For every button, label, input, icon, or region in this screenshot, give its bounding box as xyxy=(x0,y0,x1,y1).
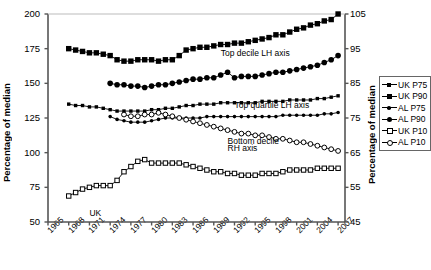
legend-item-label: UK P90 xyxy=(398,91,427,101)
legend-marker-icon xyxy=(382,91,397,101)
legend-item-label: AL P10 xyxy=(398,137,426,147)
annotation-label: UK xyxy=(89,208,101,218)
legend-item-uk-p90[interactable]: UK P90 xyxy=(382,91,427,103)
legend-marker-icon xyxy=(382,126,397,136)
legend-marker-icon xyxy=(382,114,397,124)
legend-item-label: AL P90 xyxy=(398,114,426,124)
legend-item-label: AL P75 xyxy=(398,103,426,113)
plot-area xyxy=(0,0,431,270)
series-uk-p10 xyxy=(69,160,338,196)
legend-item-label: UK P10 xyxy=(398,126,427,136)
chart-legend: UK P75UK P90AL P75AL P90UK P10AL P10 xyxy=(379,76,431,151)
chart-figure: Percentage of median Percentage of media… xyxy=(0,0,431,270)
legend-item-al-p90[interactable]: AL P90 xyxy=(382,114,427,126)
legend-item-al-p10[interactable]: AL P10 xyxy=(382,137,427,149)
annotation-label: Top decile LH axis xyxy=(221,48,290,58)
legend-item-uk-p10[interactable]: UK P10 xyxy=(382,125,427,137)
legend-marker-icon xyxy=(382,80,397,90)
legend-item-uk-p75[interactable]: UK P75 xyxy=(382,79,427,91)
annotation-label: RH axis xyxy=(228,143,258,153)
legend-item-al-p75[interactable]: AL P75 xyxy=(382,102,427,114)
legend-item-label: UK P75 xyxy=(398,80,427,90)
annotation-label: Top quartile LH axis xyxy=(234,100,309,110)
legend-marker-icon xyxy=(382,103,397,113)
legend-marker-icon xyxy=(382,137,397,147)
